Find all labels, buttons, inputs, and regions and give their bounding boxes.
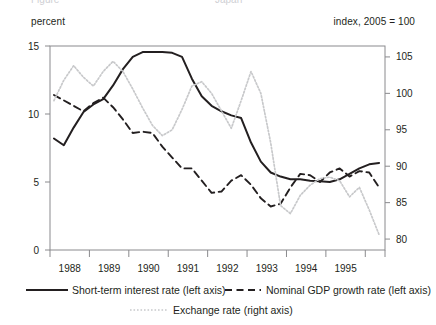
series-line-2 [54, 95, 379, 207]
series-line-3 [54, 61, 379, 234]
legend-label-short-term-interest-rate: Short-term interest rate (left axis) [72, 284, 225, 296]
chart-figure: Figure Japan percent index, 2005 = 100 0… [0, 0, 436, 325]
chart-svg: 0510158085909510010519881989199019911992… [0, 0, 436, 325]
x-axis-tick-label: 1989 [98, 263, 121, 274]
x-axis-tick-label: 1990 [137, 263, 160, 274]
y2-axis-tick-label: 90 [396, 161, 408, 172]
y-axis-tick-label: 10 [28, 109, 40, 120]
y2-axis-tick-label: 95 [396, 124, 408, 135]
y2-axis-tick-label: 80 [396, 234, 408, 245]
x-axis-tick-label: 1993 [256, 263, 279, 274]
x-axis-tick-label: 1991 [177, 263, 200, 274]
x-axis-tick-label: 1995 [334, 263, 357, 274]
y-axis-tick-label: 5 [33, 177, 39, 188]
x-axis-tick-label: 1994 [295, 263, 318, 274]
plot-area: 0510158085909510010519881989199019911992… [0, 0, 436, 325]
legend-label-nominal-gdp-growth-rate: Nominal GDP growth rate (left axis) [266, 284, 431, 296]
x-axis-tick-label: 1988 [59, 263, 82, 274]
y2-axis-tick-label: 85 [396, 197, 408, 208]
x-axis-tick-label: 1992 [216, 263, 239, 274]
y-axis-tick-label: 15 [28, 41, 40, 52]
y-axis-tick-label: 0 [33, 245, 39, 256]
y2-axis-tick-label: 105 [396, 51, 413, 62]
y2-axis-tick-label: 100 [396, 88, 413, 99]
legend-label-exchange-rate: Exchange rate (right axis) [173, 304, 293, 316]
